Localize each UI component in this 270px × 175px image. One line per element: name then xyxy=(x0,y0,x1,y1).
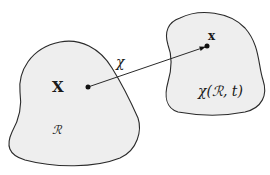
current-region xyxy=(166,13,265,115)
current-point-label: x xyxy=(208,29,216,43)
reference-region-label: ℛ xyxy=(52,123,63,137)
reference-point xyxy=(86,85,91,90)
mapping-label: χ xyxy=(115,54,126,70)
reference-point-label: X xyxy=(52,78,64,96)
motion-diagram: X ℛ χ x χ(ℛ, t) xyxy=(0,0,270,175)
current-region-label: χ(ℛ, t) xyxy=(197,83,243,99)
current-point xyxy=(205,44,210,49)
